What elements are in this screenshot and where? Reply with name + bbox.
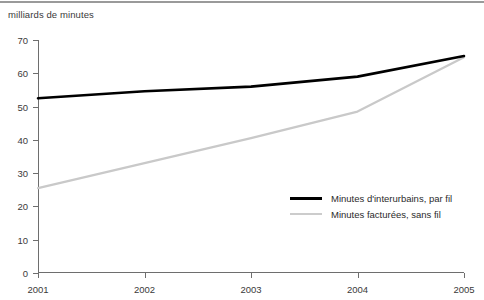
legend-swatch-wireless (290, 213, 322, 215)
top-divider-rule (0, 1, 484, 3)
y-tick-label: 0 (23, 268, 28, 279)
x-tick: 2001 (38, 273, 39, 278)
y-tick-label: 30 (17, 168, 28, 179)
y-tick-label: 70 (17, 35, 28, 46)
legend-label-wireless: Minutes facturées, sans fil (331, 209, 441, 220)
y-axis-title: milliards de minutes (8, 9, 94, 20)
x-tick-label: 2002 (134, 284, 155, 295)
chart-figure: milliards de minutes 010203040506070 200… (0, 0, 484, 300)
x-tick: 2003 (251, 273, 252, 278)
legend-swatch-wireline (290, 197, 322, 200)
legend: Minutes d'interurbains, par fil Minutes … (290, 190, 452, 222)
y-tick-label: 40 (17, 134, 28, 145)
x-tick: 2004 (358, 273, 359, 278)
x-tick-label: 2003 (240, 284, 261, 295)
y-tick-label: 50 (17, 101, 28, 112)
series-lines (38, 40, 464, 273)
x-tick-label: 2001 (27, 284, 48, 295)
legend-label-wireline: Minutes d'interurbains, par fil (331, 193, 452, 204)
legend-item-wireline: Minutes d'interurbains, par fil (290, 190, 452, 206)
x-tick-label: 2005 (453, 284, 474, 295)
x-tick: 2002 (145, 273, 146, 278)
plot-area: 010203040506070 20012002200320042005 (38, 40, 464, 273)
y-tick-label: 20 (17, 201, 28, 212)
x-tick-label: 2004 (347, 284, 368, 295)
y-tick-label: 10 (17, 234, 28, 245)
y-tick-label: 60 (17, 68, 28, 79)
series-line (38, 57, 464, 188)
series-line (38, 56, 464, 98)
x-tick: 2005 (464, 273, 465, 278)
legend-item-wireless: Minutes facturées, sans fil (290, 206, 452, 222)
